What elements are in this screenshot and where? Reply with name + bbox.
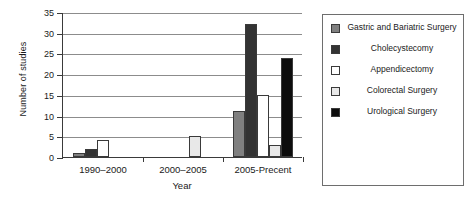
x-tick-label: 1990–2000 xyxy=(79,164,127,175)
bar xyxy=(189,136,201,157)
y-tick-label: 5 xyxy=(49,132,54,142)
legend-item: Colorectal Surgery xyxy=(331,85,457,96)
bar xyxy=(97,140,109,157)
legend-swatch-icon xyxy=(331,108,340,117)
x-tick-label: 2000–2005 xyxy=(159,164,207,175)
bar xyxy=(269,145,281,157)
bar-group xyxy=(223,13,303,157)
chart-legend: Gastric and Bariatric SurgeryCholecystec… xyxy=(322,14,464,186)
y-tick-label: 30 xyxy=(44,29,54,39)
bar xyxy=(233,111,245,157)
legend-item: Urological Surgery xyxy=(331,106,457,117)
y-tick-label: 20 xyxy=(44,70,54,80)
y-tick-label: 10 xyxy=(44,112,54,122)
y-tick-label: 0 xyxy=(49,153,54,163)
plot-area: 05101520253035 1990–20002000–20052005-Pr… xyxy=(62,13,302,158)
legend-swatch-icon xyxy=(331,24,340,33)
y-tick-label: 15 xyxy=(44,91,54,101)
bar xyxy=(281,58,293,157)
bar xyxy=(73,153,85,157)
legend-item-label: Gastric and Bariatric Surgery xyxy=(347,22,457,33)
legend-item-label: Colorectal Surgery xyxy=(347,85,457,96)
x-axis-title: Year xyxy=(62,180,302,191)
legend-item-label: Urological Surgery xyxy=(347,106,457,117)
legend-item: Gastric and Bariatric Surgery xyxy=(331,22,457,33)
x-tick xyxy=(303,157,304,162)
bar-group xyxy=(63,13,143,157)
legend-swatch-icon xyxy=(331,66,340,75)
y-axis-title: Number of studies xyxy=(18,9,28,149)
legend-item-label: Cholecystecomy xyxy=(347,43,457,54)
legend-item-label: Appendicectomy xyxy=(347,64,457,75)
bar-chart-figure: Number of studies 05101520253035 1990–20… xyxy=(0,0,472,199)
bar xyxy=(245,24,257,157)
legend-swatch-icon xyxy=(331,45,340,54)
x-tick xyxy=(223,157,224,162)
x-tick xyxy=(143,157,144,162)
y-tick xyxy=(57,158,63,159)
legend-swatch-icon xyxy=(331,87,340,96)
bar xyxy=(257,95,269,157)
legend-item: Appendicectomy xyxy=(331,64,457,75)
legend-item: Cholecystecomy xyxy=(331,43,457,54)
bar-group xyxy=(143,13,223,157)
x-tick-label: 2005-Precent xyxy=(234,164,291,175)
y-tick-label: 35 xyxy=(44,8,54,18)
y-tick-label: 25 xyxy=(44,49,54,59)
bar xyxy=(85,149,97,157)
